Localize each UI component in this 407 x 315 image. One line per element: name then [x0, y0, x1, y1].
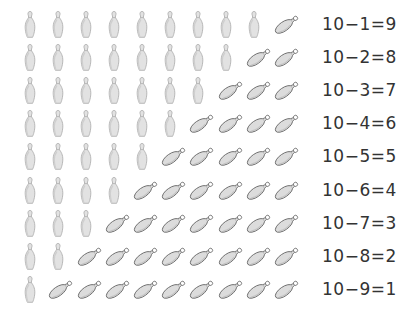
- fallen-bowling-pin-icon: [243, 140, 271, 173]
- equation-label: 10−2=8: [322, 47, 397, 67]
- fallen-bowling-pin-icon: [243, 240, 271, 273]
- fallen-bowling-pin-icon: [102, 273, 130, 306]
- pin-row: 10−7=3: [0, 207, 407, 240]
- fallen-bowling-pin-icon: [130, 174, 158, 207]
- fallen-bowling-pin-icon: [186, 273, 214, 306]
- fallen-bowling-pin-icon: [243, 41, 271, 74]
- fallen-bowling-pin-icon: [74, 273, 102, 306]
- fallen-bowling-pin-icon: [215, 107, 243, 140]
- standing-bowling-pin-icon: [156, 41, 184, 74]
- fallen-bowling-pin-icon: [215, 74, 243, 107]
- standing-bowling-pin-icon: [100, 8, 128, 41]
- fallen-bowling-pin-icon: [215, 273, 243, 306]
- fallen-bowling-pin-icon: [271, 107, 299, 140]
- standing-bowling-pin-icon: [128, 140, 156, 173]
- fallen-bowling-pin-icon: [243, 74, 271, 107]
- standing-bowling-pin-icon: [72, 140, 100, 173]
- equation-label: 10−1=9: [322, 14, 397, 34]
- pin-row: 10−5=5: [0, 140, 407, 173]
- standing-bowling-pin-icon: [72, 74, 100, 107]
- pin-row: 10−2=8: [0, 41, 407, 74]
- standing-bowling-pin-icon: [128, 8, 156, 41]
- standing-bowling-pin-icon: [156, 8, 184, 41]
- standing-bowling-pin-icon: [100, 74, 128, 107]
- fallen-bowling-pin-icon: [215, 240, 243, 273]
- standing-bowling-pin-icon: [184, 8, 212, 41]
- fallen-bowling-pin-icon: [45, 273, 73, 306]
- pin-row: 10−4=6: [0, 107, 407, 140]
- standing-bowling-pin-icon: [156, 107, 184, 140]
- fallen-bowling-pin-icon: [215, 207, 243, 240]
- standing-bowling-pin-icon: [100, 107, 128, 140]
- standing-bowling-pin-icon: [44, 207, 72, 240]
- standing-bowling-pin-icon: [44, 174, 72, 207]
- fallen-bowling-pin-icon: [243, 273, 271, 306]
- fallen-bowling-pin-icon: [130, 273, 158, 306]
- fallen-bowling-pin-icon: [102, 240, 130, 273]
- fallen-bowling-pin-icon: [215, 174, 243, 207]
- standing-bowling-pin-icon: [44, 74, 72, 107]
- fallen-bowling-pin-icon: [243, 107, 271, 140]
- fallen-bowling-pin-icon: [271, 41, 299, 74]
- standing-bowling-pin-icon: [100, 174, 128, 207]
- standing-bowling-pin-icon: [184, 74, 212, 107]
- equation-label: 10−4=6: [322, 113, 397, 133]
- standing-bowling-pin-icon: [72, 207, 100, 240]
- pin-row: 10−9=1: [0, 273, 407, 306]
- standing-bowling-pin-icon: [100, 140, 128, 173]
- standing-bowling-pin-icon: [44, 107, 72, 140]
- fallen-bowling-pin-icon: [271, 273, 299, 306]
- fallen-bowling-pin-icon: [186, 207, 214, 240]
- standing-bowling-pin-icon: [72, 174, 100, 207]
- standing-bowling-pin-icon: [44, 140, 72, 173]
- standing-bowling-pin-icon: [16, 41, 44, 74]
- fallen-bowling-pin-icon: [243, 207, 271, 240]
- fallen-bowling-pin-icon: [74, 240, 102, 273]
- standing-bowling-pin-icon: [128, 41, 156, 74]
- fallen-bowling-pin-icon: [243, 174, 271, 207]
- standing-bowling-pin-icon: [16, 107, 44, 140]
- standing-bowling-pin-icon: [72, 107, 100, 140]
- standing-bowling-pin-icon: [184, 41, 212, 74]
- fallen-bowling-pin-icon: [271, 174, 299, 207]
- standing-bowling-pin-icon: [156, 74, 184, 107]
- fallen-bowling-pin-icon: [186, 140, 214, 173]
- fallen-bowling-pin-icon: [158, 207, 186, 240]
- standing-bowling-pin-icon: [44, 41, 72, 74]
- standing-bowling-pin-icon: [72, 8, 100, 41]
- fallen-bowling-pin-icon: [158, 273, 186, 306]
- standing-bowling-pin-icon: [100, 41, 128, 74]
- fallen-bowling-pin-icon: [215, 140, 243, 173]
- equation-label: 10−8=2: [322, 246, 397, 266]
- standing-bowling-pin-icon: [44, 8, 72, 41]
- standing-bowling-pin-icon: [44, 240, 72, 273]
- standing-bowling-pin-icon: [16, 8, 44, 41]
- standing-bowling-pin-icon: [16, 207, 44, 240]
- fallen-bowling-pin-icon: [271, 140, 299, 173]
- standing-bowling-pin-icon: [16, 140, 44, 173]
- standing-bowling-pin-icon: [212, 8, 240, 41]
- equation-label: 10−3=7: [322, 80, 397, 100]
- equation-label: 10−5=5: [322, 146, 397, 166]
- fallen-bowling-pin-icon: [158, 140, 186, 173]
- fallen-bowling-pin-icon: [186, 240, 214, 273]
- fallen-bowling-pin-icon: [271, 240, 299, 273]
- standing-bowling-pin-icon: [16, 74, 44, 107]
- pin-row: 10−6=4: [0, 174, 407, 207]
- pin-row: 10−8=2: [0, 240, 407, 273]
- fallen-bowling-pin-icon: [158, 240, 186, 273]
- standing-bowling-pin-icon: [72, 41, 100, 74]
- fallen-bowling-pin-icon: [102, 207, 130, 240]
- pin-row: 10−3=7: [0, 74, 407, 107]
- fallen-bowling-pin-icon: [130, 240, 158, 273]
- fallen-bowling-pin-icon: [130, 207, 158, 240]
- standing-bowling-pin-icon: [212, 41, 240, 74]
- standing-bowling-pin-icon: [128, 107, 156, 140]
- pin-row: 10−1=9: [0, 8, 407, 41]
- fallen-bowling-pin-icon: [186, 174, 214, 207]
- fallen-bowling-pin-icon: [186, 107, 214, 140]
- standing-bowling-pin-icon: [128, 74, 156, 107]
- fallen-bowling-pin-icon: [271, 74, 299, 107]
- equation-label: 10−6=4: [322, 180, 397, 200]
- fallen-bowling-pin-icon: [271, 207, 299, 240]
